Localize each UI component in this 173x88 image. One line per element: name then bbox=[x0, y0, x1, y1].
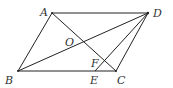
label-e: E bbox=[89, 74, 98, 87]
point-d-dot bbox=[147, 12, 149, 14]
diagonal-bd bbox=[18, 13, 148, 71]
point-a-dot bbox=[51, 12, 53, 14]
segment-cd bbox=[116, 13, 148, 71]
segment-de bbox=[95, 13, 148, 71]
label-a: A bbox=[39, 6, 48, 19]
label-b: B bbox=[4, 74, 13, 87]
label-d: D bbox=[152, 7, 162, 20]
point-c-dot bbox=[115, 70, 117, 72]
segment-ab bbox=[18, 13, 52, 71]
label-c: C bbox=[117, 74, 126, 87]
parallelogram-diagram: A D O B E C F bbox=[0, 0, 173, 88]
point-b-dot bbox=[17, 70, 19, 72]
label-o: O bbox=[65, 36, 74, 49]
label-f: F bbox=[90, 57, 99, 70]
